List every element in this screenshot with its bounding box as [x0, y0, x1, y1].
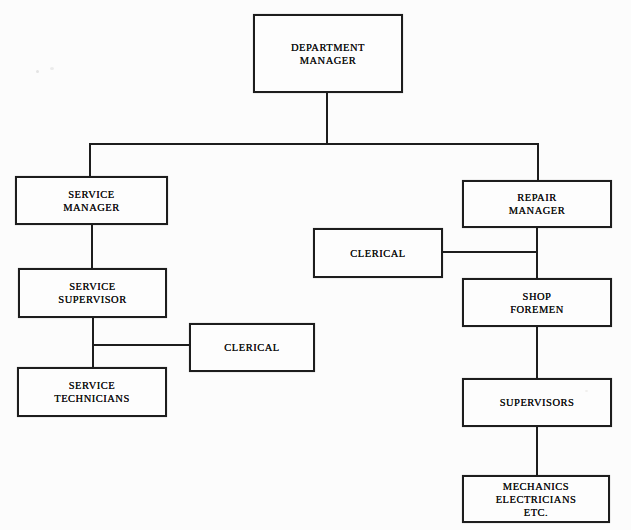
- node-label-mechanics-electricians: MECHANICS ELECTRICIANS ETC.: [496, 480, 577, 519]
- node-mechanics-electricians: MECHANICS ELECTRICIANS ETC.: [462, 475, 610, 523]
- node-label-repair-manager: REPAIR MANAGER: [509, 191, 566, 217]
- scan-speckle: [585, 390, 588, 392]
- scan-speckle: [36, 70, 39, 73]
- connector-servicemanager-supervisor: [91, 225, 93, 268]
- node-clerical-repair: CLERICAL: [313, 228, 443, 278]
- node-label-department-manager: DEPARTMENT MANAGER: [291, 41, 365, 67]
- connector-repairmanager-shopforemen: [536, 228, 538, 278]
- connector-main-horizontal: [89, 143, 539, 145]
- connector-drop-repair-manager: [537, 145, 539, 180]
- node-service-manager: SERVICE MANAGER: [15, 176, 168, 225]
- connector-supervisor-technicians: [92, 318, 94, 367]
- node-label-clerical-service: CLERICAL: [224, 341, 279, 354]
- node-supervisors: SUPERVISORS: [462, 378, 612, 427]
- connector-supervisors-mechanics: [536, 427, 538, 475]
- node-service-supervisor: SERVICE SUPERVISOR: [18, 268, 167, 318]
- node-repair-manager: REPAIR MANAGER: [462, 180, 612, 228]
- node-label-service-manager: SERVICE MANAGER: [63, 188, 120, 214]
- node-clerical-service: CLERICAL: [189, 323, 315, 372]
- node-label-clerical-repair: CLERICAL: [350, 247, 405, 260]
- node-label-service-supervisor: SERVICE SUPERVISOR: [58, 280, 126, 306]
- node-shop-foremen: SHOP FOREMEN: [462, 278, 612, 327]
- connector-deptmanager-trunk: [326, 93, 328, 144]
- node-service-technicians: SERVICE TECHNICIANS: [17, 367, 167, 417]
- scan-speckle: [50, 67, 54, 70]
- org-chart-page: DEPARTMENT MANAGER SERVICE MANAGER SERVI…: [0, 0, 631, 530]
- node-department-manager: DEPARTMENT MANAGER: [253, 14, 403, 93]
- node-label-supervisors: SUPERVISORS: [500, 396, 575, 409]
- connector-shopforemen-supervisors: [536, 327, 538, 378]
- connector-drop-service-manager: [89, 145, 91, 176]
- connector-clerical-repair-stub: [443, 251, 537, 253]
- node-label-service-technicians: SERVICE TECHNICIANS: [54, 379, 130, 405]
- connector-clerical-service-stub: [94, 344, 189, 346]
- node-label-shop-foremen: SHOP FOREMEN: [510, 290, 564, 316]
